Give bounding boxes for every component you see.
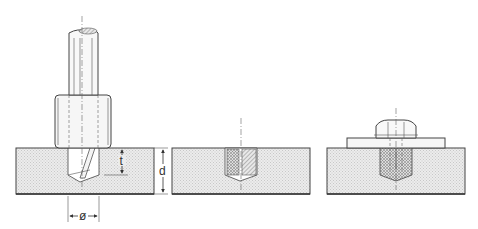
diagram-canvas: t d ø xyxy=(0,0,478,229)
threaded-insert-threads xyxy=(227,149,239,175)
label-diameter: ø xyxy=(79,209,87,223)
depth-stop-collar xyxy=(55,95,111,148)
step-1-drilling: t d ø xyxy=(16,16,168,223)
label-d: d xyxy=(159,164,166,178)
step-2-insert-installed xyxy=(172,118,310,194)
threaded-insert-section xyxy=(242,149,256,175)
drill-shank xyxy=(69,30,98,95)
step-3-bolt-fastened xyxy=(327,108,465,194)
